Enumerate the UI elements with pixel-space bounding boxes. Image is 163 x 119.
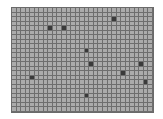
game-board[interactable] [11,7,154,113]
grid-cell[interactable] [148,107,153,112]
